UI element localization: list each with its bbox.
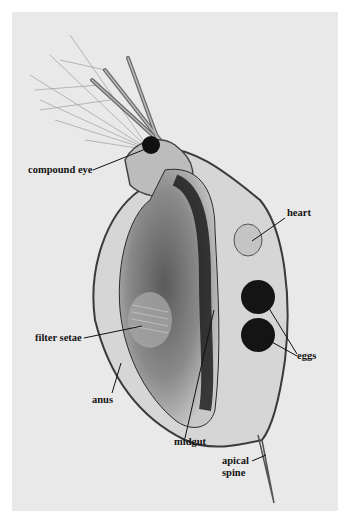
heart-structure (234, 224, 262, 256)
label-apical-spine-line-1: apical (222, 455, 262, 467)
daphnia-specimen-illustration (0, 0, 343, 519)
compound-eye-structure (142, 136, 160, 154)
label-heart: heart (287, 207, 311, 219)
label-apical-spine-line-2: spine (222, 467, 262, 479)
label-anus: anus (92, 394, 113, 406)
label-apical-spine: apical spine (222, 455, 262, 479)
antennae (30, 35, 150, 150)
label-eggs: eggs (297, 350, 316, 362)
antenna-stalks (92, 58, 160, 142)
label-midgut: midgut (174, 436, 206, 448)
egg-2 (241, 318, 275, 352)
label-filter-setae: filter setae (35, 332, 82, 344)
label-compound-eye: compound eye (28, 164, 92, 176)
